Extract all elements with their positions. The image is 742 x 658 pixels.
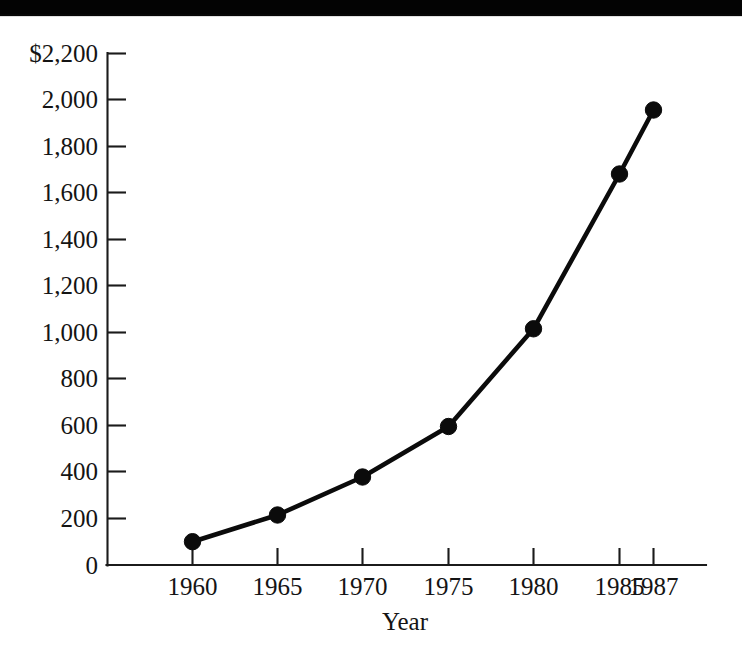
y-tick-label-600: 600 [0,413,98,438]
data-series-markers [184,102,661,550]
figure-canvas: $2,200 2,000 1,800 1,600 1,400 1,200 1,0… [0,0,742,658]
data-point-1985 [611,166,627,182]
y-tick-label-2000: 2,000 [0,87,98,112]
y-tick-label-2200: $2,200 [0,41,98,66]
data-point-1965 [269,507,285,523]
data-series-line [193,110,654,542]
data-point-1980 [525,321,541,337]
y-tick-label-400: 400 [0,459,98,484]
data-point-1970 [354,469,370,485]
x-axis-ticks [193,548,654,565]
y-tick-label-1600: 1,600 [0,180,98,205]
y-tick-label-200: 200 [0,506,98,531]
data-point-1975 [440,418,456,434]
y-tick-label-800: 800 [0,366,98,391]
data-point-1960 [184,534,200,550]
y-tick-label-1000: 1,000 [0,320,98,345]
data-point-1987 [645,102,661,118]
y-tick-label-1200: 1,200 [0,273,98,298]
x-axis-title: Year [330,609,480,634]
y-tick-label-1800: 1,800 [0,134,98,159]
x-tick-label-1987: 1987 [603,574,704,599]
y-tick-label-1400: 1,400 [0,227,98,252]
y-tick-label-0: 0 [0,553,98,578]
line-chart: $2,200 2,000 1,800 1,600 1,400 1,200 1,0… [0,0,742,658]
chart-svg [0,0,742,658]
y-axis-ticks [107,54,126,519]
